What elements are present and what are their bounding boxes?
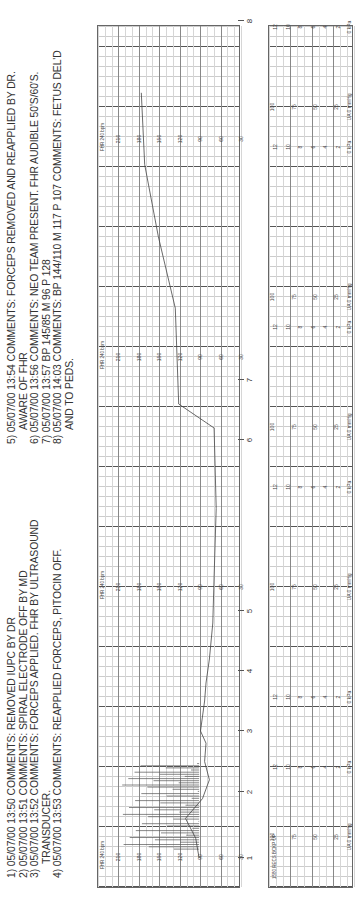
- ua-mmhg-label: 75: [291, 584, 297, 590]
- ua-kpa-label: 6: [310, 26, 316, 29]
- grid-line: [333, 26, 334, 887]
- ua-mmhg-label: 100: [269, 583, 275, 591]
- ua-mmhg-label: 50: [312, 834, 318, 840]
- grid-line: [326, 26, 327, 887]
- annotation-line: AWARE OF FHR: [18, 4, 30, 444]
- page-number-label: 1: [245, 856, 254, 860]
- annotation-line: AND TO PEDS.: [64, 4, 76, 444]
- grid-line: [347, 26, 348, 887]
- ua-mmhg-unit: UA 0 mmHg: [346, 824, 352, 851]
- annotation-notes-right: 5) 05/07/00 13:54 COMMENTS: FORCEPS REMO…: [6, 4, 76, 444]
- ua-mmhg-label: 75: [291, 424, 297, 430]
- annotation-line: 1) 05/07/00 13:50 COMMENTS: REMOVED IUPC…: [6, 458, 18, 878]
- page-number-label: 2: [245, 790, 254, 794]
- grid-line: [290, 26, 291, 887]
- page-number-label: 8: [245, 19, 254, 23]
- grid-line: [304, 26, 305, 887]
- annotation-line: 5) 05/07/00 13:54 COMMENTS: FORCEPS REMO…: [6, 4, 18, 444]
- grid-line: [241, 26, 242, 887]
- ua-kpa-label: 2: [335, 766, 341, 769]
- ua-kpa-label: 2: [335, 486, 341, 489]
- ua-kpa-label: 4: [322, 486, 328, 489]
- ua-kpa-label: 8: [297, 486, 303, 489]
- grid-line: [297, 26, 298, 887]
- rotated-strip-canvas: 1) 05/07/00 13:50 COMMENTS: REMOVED IUPC…: [0, 0, 363, 914]
- ua-mmhg-label: 25: [333, 294, 339, 300]
- ua-kpa-label: 2: [335, 696, 341, 699]
- ua-kpa-label: 12: [272, 484, 278, 490]
- grid-line: [340, 26, 341, 887]
- ua-kpa-label: 10: [285, 144, 291, 150]
- page-tick-mark: [238, 20, 244, 21]
- ua-kpa-label: 4: [322, 766, 328, 769]
- ua-kpa-label: 8: [297, 326, 303, 329]
- annotation-notes-left: 1) 05/07/00 13:50 COMMENTS: REMOVED IUPC…: [6, 458, 64, 878]
- annotation-line: 2) 05/07/00 13:51 COMMENTS: SPIRAL ELECT…: [18, 458, 30, 878]
- ua-kpa-label: 8: [297, 146, 303, 149]
- annotation-line: 8) 05/07/00 14:03 COMMENTS: BP 144/110 M…: [52, 4, 64, 444]
- annotation-line: TRANSDUCER.: [41, 458, 53, 878]
- ua-kpa-label: 8: [297, 26, 303, 29]
- ua-mmhg-unit: UA 0 mmHg: [346, 414, 352, 441]
- ua-kpa-label: 6: [310, 696, 316, 699]
- annotation-line: 4) 05/07/00 13:53 COMMENTS: REAPPLIED FO…: [52, 458, 64, 878]
- ua-kpa-label: 12: [272, 144, 278, 150]
- page-number-label: 4: [245, 669, 254, 673]
- ua-kpa-unit: 0 kPa: [346, 761, 352, 774]
- grid-line: [283, 26, 284, 887]
- ua-kpa-label: 10: [285, 24, 291, 30]
- ua-mmhg-label: 25: [333, 104, 339, 110]
- fhr-trace-line: [97, 25, 240, 888]
- ua-mmhg-label: 100: [269, 833, 275, 841]
- ua-mmhg-unit: UA 0 mmHg: [346, 284, 352, 311]
- ua-mmhg-label: 25: [333, 584, 339, 590]
- ua-mmhg-label: 75: [291, 834, 297, 840]
- grid-line: [354, 26, 355, 887]
- ua-mmhg-label: 50: [312, 104, 318, 110]
- ua-kpa-label: 2: [335, 26, 341, 29]
- annotation-line: 6) 05/07/00 13:56 COMMENTS: NEO TEAM PRE…: [29, 4, 41, 444]
- ua-mmhg-label: 100: [269, 293, 275, 301]
- ua-mmhg-label: 50: [312, 294, 318, 300]
- ua-mmhg-label: 100: [269, 103, 275, 111]
- grid-line: [276, 26, 277, 887]
- ua-kpa-label: 12: [272, 764, 278, 770]
- grid-line: [319, 26, 320, 887]
- ua-mmhg-unit: UA 0 mmHg: [346, 574, 352, 601]
- ua-kpa-label: 4: [322, 326, 328, 329]
- ua-kpa-label: 10: [285, 764, 291, 770]
- ua-kpa-label: 12: [272, 694, 278, 700]
- ua-mmhg-label: 50: [312, 584, 318, 590]
- page-number-label: 5: [245, 609, 254, 613]
- ua-kpa-unit: 0 kPa: [346, 481, 352, 494]
- ua-mmhg-label: 25: [333, 834, 339, 840]
- page-number-label: 3: [245, 729, 254, 733]
- ua-kpa-label: 8: [297, 696, 303, 699]
- ua-kpa-unit: 0 kPa: [346, 321, 352, 334]
- ua-mmhg-label: 50: [312, 424, 318, 430]
- ua-mmhg-label: 75: [291, 104, 297, 110]
- ua-kpa-label: 12: [272, 24, 278, 30]
- ua-kpa-label: 10: [285, 694, 291, 700]
- ua-grid: 1580 RECS BCKP UP100755025UA 0 mmHg10075…: [268, 25, 353, 888]
- ua-kpa-label: 4: [322, 146, 328, 149]
- ua-mmhg-label: 100: [269, 423, 275, 431]
- ua-kpa-label: 8: [297, 766, 303, 769]
- ua-kpa-label: 12: [272, 324, 278, 330]
- ua-mmhg-label: 75: [291, 294, 297, 300]
- ua-kpa-unit: 0 kPa: [346, 691, 352, 704]
- ua-kpa-label: 4: [322, 26, 328, 29]
- ua-mmhg-label: 25: [333, 424, 339, 430]
- ua-kpa-label: 6: [310, 766, 316, 769]
- ua-kpa-label: 10: [285, 484, 291, 490]
- annotation-line: 7) 05/07/00 13:57 BP 145/85 M 96 P 128: [41, 4, 53, 444]
- annotation-line: 3) 05/07/00 13:52 COMMENTS: FORCEPS APPL…: [29, 458, 41, 878]
- ua-kpa-label: 2: [335, 326, 341, 329]
- ua-mmhg-unit: UA 0 mmHg: [346, 94, 352, 121]
- grid-line: [269, 26, 270, 887]
- ua-kpa-label: 6: [310, 326, 316, 329]
- page-number-label: 7: [245, 378, 254, 382]
- ua-kpa-unit: 0 kPa: [346, 141, 352, 154]
- ua-kpa-label: 4: [322, 696, 328, 699]
- ua-kpa-label: 6: [310, 146, 316, 149]
